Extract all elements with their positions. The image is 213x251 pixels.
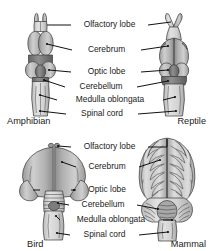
bird-medulla-and-cord bbox=[43, 211, 64, 240]
label-optic-lobe-top: Optic lobe bbox=[88, 66, 126, 76]
label-spinal-cord-bottom: Spinal cord bbox=[84, 229, 126, 239]
label-cerebrum-bottom: Cerebrum bbox=[88, 161, 125, 171]
label-olfactory-lobe-bottom: Olfactory lobe bbox=[84, 141, 136, 151]
brain-comparison-figure: Amphibian Reptile bbox=[0, 0, 213, 251]
diagram-canvas: Amphibian Reptile bbox=[0, 0, 213, 251]
caption-bird: Bird bbox=[27, 239, 43, 249]
bird-brain-illustration: Bird bbox=[19, 143, 88, 249]
mammal-brain-illustration: Mammal bbox=[139, 138, 206, 249]
top-panel-leaders: Olfactory lobe Cerebrum Optic lobe Cereb… bbox=[39, 19, 177, 118]
label-olfactory-lobe-top: Olfactory lobe bbox=[84, 19, 136, 29]
label-optic-lobe-bottom: Optic lobe bbox=[88, 184, 126, 194]
caption-mammal: Mammal bbox=[171, 239, 206, 249]
amphibian-cerebrum bbox=[28, 31, 53, 55]
mammal-cerebellum bbox=[141, 198, 192, 222]
caption-amphibian: Amphibian bbox=[7, 116, 50, 126]
caption-reptile: Reptile bbox=[177, 116, 206, 126]
mammal-cerebrum bbox=[139, 138, 195, 202]
label-spinal-cord-top: Spinal cord bbox=[81, 108, 123, 118]
label-cerebellum-top: Cerebellum bbox=[80, 81, 123, 91]
reptile-cerebrum bbox=[159, 38, 188, 67]
reptile-olfactory-lobe bbox=[165, 13, 182, 40]
bird-cerebellum bbox=[44, 191, 65, 212]
label-medulla-oblongata-top: Medulla oblongata bbox=[76, 94, 145, 104]
label-medulla-oblongata-bottom: Medulla oblongata bbox=[77, 214, 146, 224]
label-cerebellum-bottom: Cerebellum bbox=[82, 199, 125, 209]
label-cerebrum-top: Cerebrum bbox=[88, 44, 125, 54]
mammal-medulla-and-cord bbox=[158, 220, 177, 241]
amphibian-olfactory-lobe bbox=[34, 13, 47, 31]
